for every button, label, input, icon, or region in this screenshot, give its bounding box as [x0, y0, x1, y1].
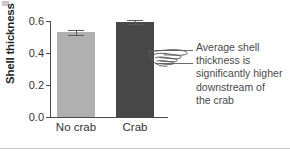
- x-category-label-no-crab: No crab: [46, 121, 106, 133]
- bottom-separator-rule: [0, 148, 290, 149]
- error-bar-no-crab-cap-top: [68, 30, 84, 31]
- pointing-hand-cursor-icon: [148, 44, 192, 74]
- y-axis-tick-labels: 0.6 0.4 0.2 0.0: [18, 0, 44, 153]
- y-tick-label-0.6: 0.6: [18, 16, 44, 27]
- shell-thickness-bar-chart-figure: Shell thickness (mm) 0.6 0.4 0.2 0.0: [0, 0, 290, 153]
- error-bar-no-crab-cap-bottom: [68, 35, 84, 36]
- error-bar-crab-cap-bottom: [127, 24, 143, 25]
- x-axis-line: [50, 117, 168, 118]
- error-bar-crab-cap-top: [127, 20, 143, 21]
- y-axis-line: [50, 21, 51, 117]
- y-tick-label-0.4: 0.4: [18, 48, 44, 59]
- y-axis-title: Shell thickness (mm): [4, 0, 16, 84]
- y-tick-label-0.0: 0.0: [18, 112, 44, 123]
- callout-line-4: downstream of: [196, 81, 290, 94]
- plot-area: Shell thickness (mm) 0.6 0.4 0.2 0.0: [0, 0, 290, 153]
- callout-line-1: Average shell: [196, 41, 290, 54]
- callout-line-3: significantly higher: [196, 67, 290, 80]
- y-tick-label-0.2: 0.2: [18, 80, 44, 91]
- callout-line-5: the crab: [196, 94, 290, 107]
- error-bar-no-crab: [57, 30, 95, 117]
- callout-line-2: thickness is: [196, 54, 290, 67]
- significance-callout-text: Average shell thickness is significantly…: [196, 41, 290, 107]
- x-category-label-crab: Crab: [108, 121, 162, 133]
